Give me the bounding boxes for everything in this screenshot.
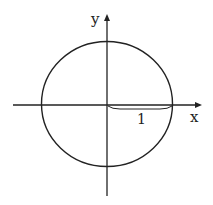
unit-circle-diagram: y x 1 bbox=[0, 0, 213, 205]
radius-label: 1 bbox=[137, 111, 146, 127]
x-axis-label: x bbox=[190, 108, 199, 126]
radius-brace bbox=[108, 106, 172, 109]
y-axis-label: y bbox=[90, 10, 100, 28]
y-axis-arrow-icon bbox=[104, 14, 110, 21]
